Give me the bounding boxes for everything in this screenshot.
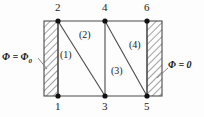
node-dot-1 [55,93,60,98]
element-label-4: (4) [129,40,141,50]
left-bc-equals: = [10,51,21,62]
element-label-3: (3) [111,66,123,76]
left-bc-symbol: Φ [2,51,10,62]
node-label-5: 5 [144,101,150,112]
node-label-2: 2 [55,2,61,13]
element-label-2: (2) [79,30,91,40]
node-dot-5 [144,93,149,98]
figure-canvas: 2 4 6 1 3 5 (1) (2) (3) (4) Φ = Φ0 Φ = 0 [0,0,204,117]
left-hatched-block [44,21,58,96]
right-bc-symbol: Φ [168,59,176,70]
element-label-1: (1) [60,50,72,60]
node-dot-2 [55,18,60,23]
node-label-1: 1 [55,101,61,112]
node-label-6: 6 [144,2,150,13]
right-bc-value: 0 [187,59,192,70]
node-label-4: 4 [102,2,108,13]
node-dot-4 [102,18,107,23]
left-boundary-condition: Φ = Φ0 [2,52,32,65]
diagonal-4-5 [105,21,147,96]
node-dot-6 [144,18,149,23]
node-label-3: 3 [102,101,108,112]
right-bc-equals: = [176,59,187,70]
left-bc-subscript: 0 [28,57,32,65]
node-dot-3 [102,93,107,98]
right-boundary-condition: Φ = 0 [168,60,192,70]
right-hatched-block [147,21,162,96]
